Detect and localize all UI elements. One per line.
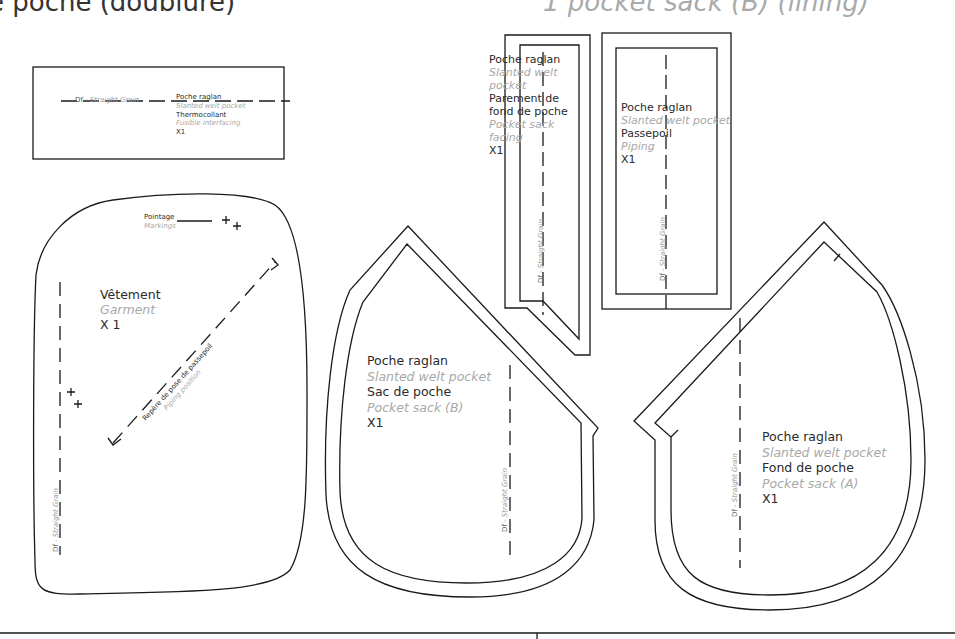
label-qty: X1 [621, 153, 730, 166]
label-part-en: Pocket sack (B) [367, 400, 491, 416]
grain-label-piping: Df - Straight Grain [659, 217, 667, 281]
label-name-en: Slanted welt pocket [176, 102, 245, 111]
label-part-en: Piping [621, 140, 730, 153]
label-qty: X1 [762, 491, 886, 507]
marking-cross-2 [233, 222, 241, 230]
label-name-en: Slanted welt pocket [367, 369, 491, 385]
label-qty: X1 [176, 128, 245, 137]
label-pocket-sack-b: Poche raglan Slanted welt pocket Sac de … [367, 353, 491, 431]
label-piping: Poche raglan Slanted welt pocket Passepo… [621, 101, 730, 166]
label-part-fr-1: Parement de [489, 92, 568, 105]
grain-notch-a-side [671, 430, 678, 437]
label-name-fr: Poche raglan [621, 101, 730, 114]
markings-en: Markings [144, 222, 176, 231]
label-part-en: Garment [100, 302, 161, 317]
label-name-en: Slanted welt pocket [762, 445, 886, 461]
marking-cross-1 [222, 216, 230, 224]
label-part-en-2: facing [489, 131, 568, 144]
label-interfacing: Poche raglan Slanted welt pocket Thermoc… [176, 93, 245, 137]
label-markings: Pointage Markings [144, 213, 176, 231]
label-name-fr: Poche raglan [367, 353, 491, 369]
label-part-fr: Thermocollant [176, 111, 245, 120]
markings-fr: Pointage [144, 213, 176, 222]
label-qty: X1 [489, 144, 568, 157]
label-name-fr: Poche raglan [489, 53, 568, 66]
label-part-fr: Sac de poche [367, 384, 491, 400]
label-part-en-1: Pocket sack [489, 118, 568, 131]
piece-interfacing-outline [33, 67, 284, 159]
piping-notch-top [271, 258, 278, 270]
label-qty: X 1 [100, 317, 161, 332]
label-qty: X1 [367, 415, 491, 431]
piece-pocket-sack-a-inner [655, 242, 911, 595]
grain-label-facing: Df - Straight Grain [537, 219, 545, 283]
label-name-en: Slanted welt pocket [621, 114, 730, 127]
label-part-en: Fusible interfacing [176, 119, 245, 128]
label-part-fr: Vêtement [100, 287, 161, 302]
label-name-fr: Poche raglan [762, 429, 886, 445]
label-name-en-2: pocket [489, 79, 568, 92]
label-name-en-1: Slanted welt [489, 66, 568, 79]
label-name-fr: Poche raglan [176, 93, 245, 102]
label-part-fr: Passepoil [621, 127, 730, 140]
label-part-en: Pocket sack (A) [762, 476, 886, 492]
marking-cross-4 [74, 400, 82, 408]
label-pocket-sack-a: Poche raglan Slanted welt pocket Fond de… [762, 429, 886, 507]
grain-label-pocket-sack-b: Df - Straight Grain [501, 468, 509, 532]
label-part-fr: Fond de poche [762, 460, 886, 476]
marking-cross-3 [67, 388, 75, 396]
grain-label-pocket-sack-a: Df - Straight Grain [731, 453, 739, 517]
label-garment: Vêtement Garment X 1 [100, 287, 161, 332]
label-facing: Poche raglan Slanted welt pocket Paremen… [489, 53, 568, 157]
grain-label-garment: Df - Straight Grain [52, 488, 60, 552]
grain-label-interfacing: Df - Straight Grain [75, 96, 139, 105]
label-part-fr-2: fond de poche [489, 105, 568, 118]
